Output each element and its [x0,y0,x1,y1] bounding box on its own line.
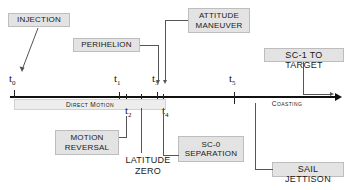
event-label-motion-reversal[interactable]: MOTION REVERSAL [55,130,119,155]
connector-perihelion-vertical [158,45,159,81]
connector-motion-reversal-vertical [126,116,127,138]
connector-attitude-arrow [163,80,167,84]
time-label-t0-sub: 0 [12,79,16,87]
time-label-t1-sub: 1 [117,79,121,87]
connector-sc1-arrow [330,92,334,96]
time-label-t5: t5 [229,72,236,87]
time-label-t0: t0 [9,72,16,87]
connector-sc1-vertical [303,62,304,95]
connector-sail-jettison-horizontal [255,169,273,170]
timeline-axis [10,96,337,98]
connector-sc0-horizontal [163,155,179,156]
event-label-sail-jettison[interactable]: SAIL JETTISON [272,162,344,177]
connector-perihelion-arrow [156,80,160,84]
time-label-t5-sub: 5 [232,79,236,87]
connector-sail-jettison-vertical [255,103,256,170]
event-label-latitude-zero[interactable]: LATITUDE ZERO [119,152,177,179]
connector-attitude-horizontal [165,20,188,21]
tick-t0 [14,90,15,98]
event-label-perihelion[interactable]: PERIHELION [73,38,140,52]
mission-timeline-diagram: Direct Motion Coasting t0 t1 t2 t3 t4 t5… [0,0,350,190]
event-label-injection[interactable]: INJECTION [8,13,70,27]
time-label-t1: t1 [114,72,121,87]
connector-sc0-vertical [163,108,164,156]
time-label-t2-sub: 2 [128,111,132,119]
event-label-sc1-to-target[interactable]: SC-1 TO TARGET [264,48,344,62]
connector-perihelion-horizontal [140,45,159,46]
phase-direct-motion: Direct Motion [14,99,166,110]
connector-attitude-vertical [165,20,166,81]
connector-latitude-zero-vertical [141,108,142,153]
event-label-sc0-separation[interactable]: SC-0 SEPARATION [178,136,244,162]
event-label-attitude-maneuver[interactable]: ATTITUDE MANEUVER [188,8,250,33]
time-label-t4-sub: 4 [165,111,169,119]
phase-coasting: Coasting [237,99,337,110]
tick-t5 [234,92,235,104]
connector-sc1-horizontal [303,94,331,95]
